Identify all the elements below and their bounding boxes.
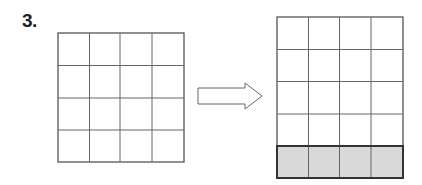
left-grid <box>58 33 184 162</box>
diagram-canvas <box>0 0 422 185</box>
right-grid <box>277 17 403 178</box>
right-arrow-icon <box>198 83 262 109</box>
